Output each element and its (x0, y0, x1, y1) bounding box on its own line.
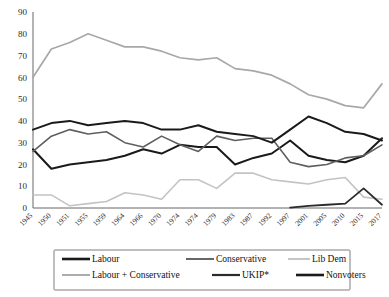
series-line-labour-conservative (33, 34, 382, 108)
x-tick-15: 2001 (293, 211, 310, 228)
y-axis-tick-labels: 0102030405060708090 (18, 7, 28, 213)
y-tick-70: 70 (18, 51, 28, 61)
x-tick-9: 1974 (183, 211, 200, 228)
y-tick-10: 10 (18, 181, 28, 191)
x-tick-17: 2010 (330, 211, 347, 228)
legend-label-labour[interactable]: Labour (92, 254, 120, 264)
x-tick-14: 1997 (275, 211, 292, 228)
series-line-nonvoters (33, 117, 382, 143)
line-chart: 0102030405060708090 19451950195119551959… (0, 0, 389, 297)
y-tick-80: 80 (18, 29, 28, 39)
x-tick-2: 1951 (54, 211, 71, 228)
x-tick-6: 1966 (128, 211, 145, 228)
x-tick-1: 1950 (36, 211, 53, 228)
chart-legend: LabourConservativeLib DemLabour + Conser… (54, 250, 366, 290)
x-tick-12: 1987 (238, 211, 255, 228)
series-line-lib-dem (33, 173, 382, 206)
chart-series-lines (33, 34, 382, 208)
x-tick-18: 2015 (348, 211, 365, 228)
y-tick-40: 40 (18, 116, 28, 126)
legend-label-labour-conservative[interactable]: Labour + Conservative (92, 270, 180, 280)
legend-label-lib-dem[interactable]: Lib Dem (312, 254, 347, 264)
x-tick-7: 1970 (146, 211, 163, 228)
x-tick-19: 2017 (366, 211, 383, 228)
x-tick-4: 1959 (91, 211, 108, 228)
x-tick-13: 1992 (256, 211, 273, 228)
x-tick-11: 1983 (219, 211, 236, 228)
y-tick-60: 60 (18, 73, 28, 83)
x-tick-10: 1979 (201, 211, 218, 228)
legend-label-ukip[interactable]: UKIP* (242, 270, 269, 280)
x-tick-8: 1974 (164, 211, 181, 228)
y-tick-20: 20 (18, 160, 28, 170)
chart-root: 0102030405060708090 19451950195119551959… (0, 0, 389, 297)
x-tick-16: 2005 (311, 211, 328, 228)
legend-label-conservative[interactable]: Conservative (216, 254, 266, 264)
x-tick-5: 1964 (109, 211, 126, 228)
y-tick-50: 50 (18, 94, 28, 104)
y-tick-30: 30 (18, 138, 28, 148)
x-tick-0: 1945 (17, 211, 34, 228)
x-axis-tick-labels: 1945195019511955195919641966197019741974… (17, 211, 383, 228)
y-tick-90: 90 (18, 7, 28, 17)
x-tick-3: 1955 (73, 211, 90, 228)
legend-label-nonvoters[interactable]: Nonvoters (326, 270, 366, 280)
